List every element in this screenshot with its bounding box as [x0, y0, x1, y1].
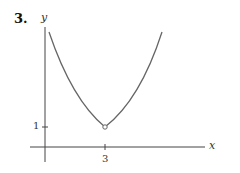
plot-area	[0, 0, 240, 173]
open-point-marker	[103, 125, 107, 129]
curve	[49, 32, 162, 127]
